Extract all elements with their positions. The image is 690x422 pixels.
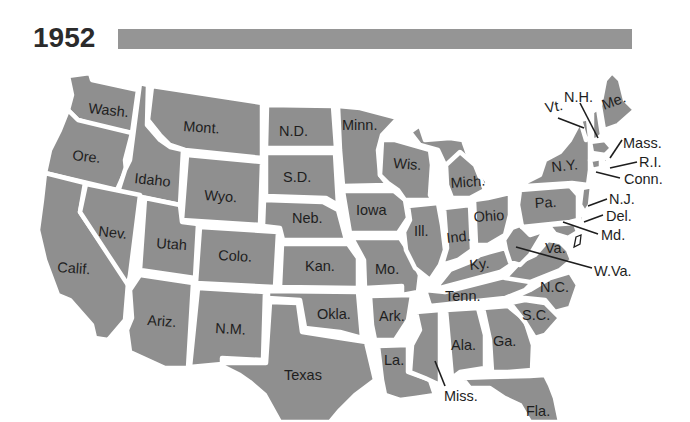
label-sc: S.C. (522, 307, 550, 323)
label-ar: Ark. (379, 308, 405, 324)
label-vt: Vt. (544, 97, 564, 116)
label-ga: Ga. (493, 333, 516, 349)
label-sd: S.D. (283, 169, 311, 185)
label-az: Ariz. (147, 312, 177, 330)
label-ky: Ky. (469, 255, 490, 273)
label-ne: Neb. (292, 210, 323, 226)
label-ia: Iowa (356, 202, 388, 218)
state-nj[interactable] (580, 186, 592, 213)
state-ny[interactable] (524, 120, 590, 186)
label-ri: R.I. (639, 154, 662, 170)
label-mo: Mo. (375, 261, 399, 277)
label-ca: Calif. (57, 259, 91, 277)
label-ma: Mass. (623, 135, 662, 151)
leader-ct (596, 172, 620, 178)
label-nh: N.H. (564, 89, 593, 105)
label-nd: N.D. (279, 123, 308, 139)
label-ms: Miss. (444, 388, 478, 404)
label-md: Md. (601, 227, 625, 243)
label-wy: Wyo. (204, 187, 238, 205)
label-nj: N.J. (609, 191, 635, 207)
label-co: Colo. (218, 247, 253, 265)
label-fl: Fla. (526, 403, 550, 419)
label-wv: W.Va. (594, 263, 632, 279)
label-tx: Texas (284, 367, 322, 383)
label-va: Va. (545, 240, 566, 256)
label-or: Ore. (72, 147, 102, 166)
label-nc: N.C. (540, 279, 569, 295)
label-wi: Wis. (393, 155, 422, 173)
label-ks: Kan. (305, 258, 335, 274)
label-ct: Conn. (624, 171, 663, 187)
state-ms[interactable] (410, 310, 440, 385)
label-tn: Tenn. (445, 288, 480, 304)
label-nv: Nev. (98, 223, 128, 242)
leader-de (584, 215, 603, 222)
label-ut: Utah (156, 235, 188, 253)
label-de: Del. (606, 208, 632, 224)
label-al: Ala. (451, 337, 476, 353)
us-map: Wash. Ore. Calif. Idaho Nev. Mont. Wyo. … (0, 0, 690, 422)
label-mn: Minn. (342, 117, 377, 133)
label-il: Ill. (414, 223, 429, 239)
chesapeake-outline (574, 235, 581, 247)
label-ny: N.Y. (551, 156, 579, 175)
state-ri[interactable] (603, 156, 608, 163)
label-nm: N.M. (215, 320, 246, 338)
label-la: La. (384, 352, 404, 368)
label-mi: Mich. (450, 173, 486, 191)
label-mt: Mont. (183, 118, 220, 136)
label-oh: Ohio (473, 207, 505, 225)
label-in: Ind. (446, 228, 472, 246)
state-ma[interactable] (590, 140, 612, 155)
label-pa: Pa. (534, 194, 557, 211)
state-de[interactable] (579, 214, 584, 224)
label-ok: Okla. (317, 306, 351, 322)
leader-ri (610, 162, 637, 168)
state-ct[interactable] (590, 158, 601, 170)
